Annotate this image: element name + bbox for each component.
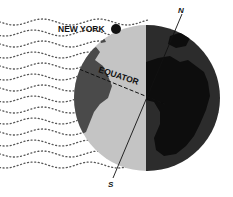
globe — [70, 20, 230, 180]
globe-night-side — [140, 20, 230, 180]
new-york-label: NEW YORK — [58, 24, 105, 34]
north-label: N — [178, 6, 184, 15]
south-label: S — [108, 180, 114, 189]
globe-diagram: NEW YORK EQUATOR N S — [0, 0, 233, 197]
new-york-marker — [111, 24, 121, 34]
